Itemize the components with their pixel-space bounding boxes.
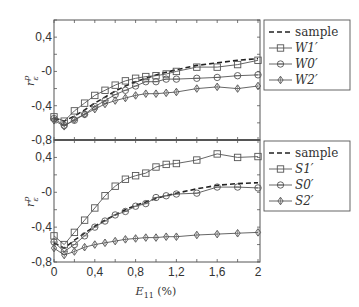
x-tick-label: 1,6 [209,265,226,279]
x-axis-label: E11 (%) [135,285,177,300]
legend-label: sample [295,25,338,39]
y-axis-label: rpε [22,76,40,86]
y-tick-label: -0 [41,64,52,78]
bottom-panel: 0,4-0-0,4-0,800,40,81,21,62 [31,140,261,279]
x-tick-label: 1,2 [168,265,185,279]
x-tick-label: 0 [51,265,58,279]
legend-label: W0′ [295,57,318,71]
y-tick-label: -0,4 [31,99,52,113]
y-tick-label: 0,4 [35,150,52,164]
x-tick-label: 2 [255,265,262,279]
x-tick-label: 0,4 [86,265,103,279]
top-legend: sampleW1′W0′W2′ [264,20,350,90]
y-tick-label: -0,4 [31,220,52,234]
series-line [54,154,258,245]
plot-frame [54,20,260,140]
legend-label: S1′ [295,162,314,176]
legend-label: W1′ [295,41,318,55]
y-tick-label: -0 [41,185,52,199]
bottom-legend: sampleS1′S0′S2′ [264,141,350,211]
y-axis-label: rpε [22,197,40,207]
legend-label: S0′ [295,178,314,192]
series-S0 [51,184,261,255]
x-tick-label: 0,8 [127,265,144,279]
y-tick-label: 0,4 [35,30,52,44]
strain-ratio-chart: 0,4-0-0,4-0,8 0,4-0-0,4-0,800,40,81,21,6… [0,0,359,307]
legend-label: S2′ [295,194,314,208]
legend-label: W2′ [295,73,318,87]
legend-label: sample [295,146,338,160]
y-tick-label: -0,8 [31,255,52,269]
y-tick-label: -0,8 [31,133,52,147]
top-panel: 0,4-0-0,4-0,8 [31,20,261,147]
